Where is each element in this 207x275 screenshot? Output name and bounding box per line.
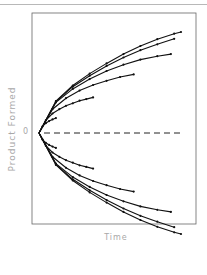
data-point: [85, 166, 87, 168]
curve-lower-6: [39, 133, 181, 234]
data-point: [156, 221, 158, 223]
data-point: [89, 73, 91, 75]
curve-lower-2: [39, 133, 93, 169]
curve-upper-1: [39, 118, 56, 133]
data-point: [79, 100, 81, 102]
data-point: [51, 112, 53, 114]
data-point: [51, 151, 53, 153]
data-point: [173, 33, 175, 35]
data-point: [72, 102, 74, 104]
data-point: [106, 62, 108, 64]
data-point: [122, 211, 124, 213]
data-point: [89, 78, 91, 80]
data-point: [58, 156, 60, 158]
data-point: [65, 167, 67, 169]
data-point: [133, 191, 135, 193]
data-point: [58, 108, 60, 110]
curve-upper-2: [39, 97, 93, 133]
data-point: [55, 117, 57, 119]
data-point: [48, 120, 50, 122]
data-point: [170, 53, 172, 55]
curve-lower-1: [39, 133, 56, 148]
data-point: [180, 31, 182, 33]
data-point: [65, 159, 67, 161]
curve-group: [39, 31, 182, 235]
data-point: [51, 118, 53, 120]
data-point: [79, 90, 81, 92]
data-point: [119, 188, 121, 190]
data-point: [65, 97, 67, 99]
data-point: [72, 162, 74, 164]
data-point: [48, 144, 50, 146]
data-point: [139, 45, 141, 47]
x-axis-label: Time: [96, 233, 136, 242]
data-point: [119, 76, 121, 78]
data-point: [92, 96, 94, 98]
curve-lower-3: [39, 133, 134, 192]
y-tick-zero: 0: [23, 127, 28, 136]
data-point: [133, 73, 135, 75]
data-point: [122, 200, 124, 202]
data-point: [106, 194, 108, 196]
data-point: [89, 186, 91, 188]
data-point: [55, 147, 57, 149]
data-point: [72, 84, 74, 86]
data-point: [122, 207, 124, 209]
data-point: [139, 219, 141, 221]
data-point: [65, 105, 67, 107]
data-point: [139, 49, 141, 51]
data-point: [173, 38, 175, 40]
data-point: [122, 64, 124, 66]
data-point: [106, 80, 108, 82]
data-point: [173, 226, 175, 228]
data-point: [139, 205, 141, 207]
curve-lower-4: [39, 133, 171, 212]
curve-upper-4: [39, 54, 171, 133]
data-point: [72, 176, 74, 178]
curve-lower-5: [39, 133, 174, 227]
data-point: [173, 231, 175, 233]
data-point: [156, 55, 158, 57]
data-point: [106, 199, 108, 201]
data-point: [51, 146, 53, 148]
data-point: [92, 180, 94, 182]
data-point: [89, 191, 91, 193]
data-point: [92, 84, 94, 86]
data-point: [106, 65, 108, 67]
data-point: [156, 209, 158, 211]
data-point: [79, 164, 81, 166]
data-point: [156, 38, 158, 40]
data-point: [92, 168, 94, 170]
data-point: [156, 43, 158, 45]
data-point: [72, 179, 74, 181]
data-point: [55, 100, 57, 102]
data-point: [79, 174, 81, 176]
y-axis-label: Product Formed: [7, 79, 17, 179]
data-point: [106, 70, 108, 72]
data-point: [122, 53, 124, 55]
curve-upper-6: [39, 32, 181, 133]
data-point: [55, 164, 57, 166]
data-point: [180, 233, 182, 235]
data-point: [106, 202, 108, 204]
data-point: [89, 189, 91, 191]
data-point: [170, 211, 172, 213]
curve-upper-3: [39, 74, 134, 133]
data-point: [85, 98, 87, 100]
data-point: [139, 59, 141, 61]
data-point: [156, 226, 158, 228]
data-point: [139, 215, 141, 217]
data-point: [72, 88, 74, 90]
data-point: [106, 184, 108, 186]
data-point: [89, 75, 91, 77]
curve-upper-5: [39, 39, 174, 133]
data-point: [122, 56, 124, 58]
